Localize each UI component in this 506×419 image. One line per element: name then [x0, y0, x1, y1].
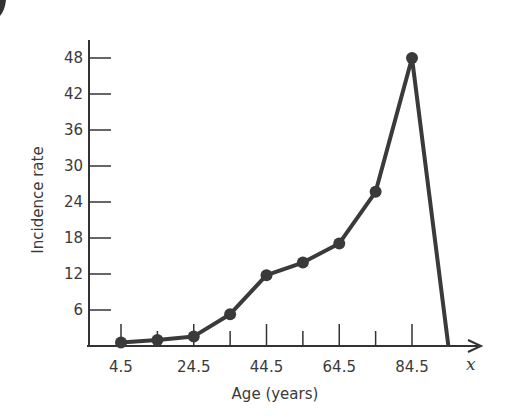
- x-axis-title: Age (years): [232, 385, 319, 403]
- x-axis-variable: x: [466, 354, 476, 374]
- x-tick-label: 4.5: [109, 358, 133, 376]
- series-line: [121, 58, 448, 346]
- x-tick-label: 64.5: [323, 358, 356, 376]
- corner-fragment: [0, 0, 6, 16]
- data-point-marker: [297, 257, 309, 269]
- y-tick-label: 42: [64, 85, 83, 103]
- y-tick-label: 18: [64, 229, 83, 247]
- data-point-marker: [406, 52, 418, 64]
- data-point-marker: [370, 186, 382, 198]
- y-tick-label: 36: [64, 121, 83, 139]
- data-point-marker: [261, 269, 273, 281]
- y-tick-label: 30: [64, 157, 83, 175]
- y-tick-label: 24: [64, 193, 83, 211]
- data-point-marker: [115, 336, 127, 348]
- y-tick-label: 12: [64, 265, 83, 283]
- y-axis-title: Incidence rate: [29, 146, 47, 253]
- data-point-marker: [224, 308, 236, 320]
- x-tick-label: 44.5: [250, 358, 283, 376]
- data-point-marker: [188, 330, 200, 342]
- x-tick-label: 84.5: [395, 358, 428, 376]
- y-tick-label: 48: [64, 49, 83, 67]
- axes: 6121824303642484.524.544.564.584.5: [64, 40, 481, 376]
- data-point-marker: [333, 237, 345, 249]
- data-series: [115, 52, 448, 348]
- data-point-marker: [151, 334, 163, 346]
- y-tick-label: 6: [73, 301, 83, 319]
- incidence-rate-line-chart: 6121824303642484.524.544.564.584.5 Incid…: [0, 0, 506, 419]
- x-tick-label: 24.5: [177, 358, 210, 376]
